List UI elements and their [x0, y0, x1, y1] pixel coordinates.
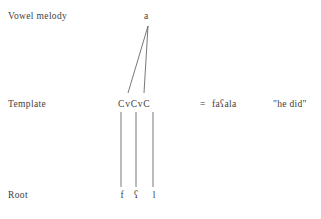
root-segment-3: l: [150, 190, 158, 200]
association-line-vowel-to-slot4: [144, 26, 148, 93]
gloss-text: "he did": [273, 99, 307, 109]
vowel-melody-segment-a: a: [144, 11, 149, 21]
template-skeleton-string: CvCvC: [118, 99, 151, 109]
figure-canvas: Vowel melody Template Root a CvCvC = faʕ…: [0, 0, 321, 219]
tier-label-vowel-melody: Vowel melody: [8, 11, 67, 21]
equals-sign: =: [200, 99, 206, 109]
surface-form: faʕala: [212, 99, 236, 109]
tier-label-template: Template: [8, 99, 46, 109]
root-segment-1: f: [118, 190, 126, 200]
association-line-vowel-to-slot2: [128, 26, 148, 93]
tier-label-root: Root: [8, 190, 28, 200]
association-lines-layer: [0, 0, 321, 219]
root-segment-2: ʕ: [132, 190, 140, 200]
